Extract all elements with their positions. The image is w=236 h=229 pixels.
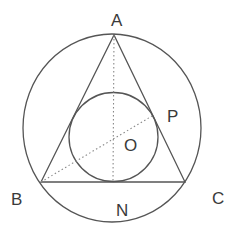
label-b: B (11, 190, 22, 209)
label-c: C (212, 189, 224, 208)
geometry-diagram: A B C N O P (0, 0, 236, 229)
label-p: P (167, 107, 178, 126)
label-o: O (124, 136, 137, 155)
label-n: N (116, 201, 128, 220)
circumcircle (23, 34, 201, 222)
altitude-a-n (113, 35, 114, 182)
label-a: A (111, 11, 123, 30)
